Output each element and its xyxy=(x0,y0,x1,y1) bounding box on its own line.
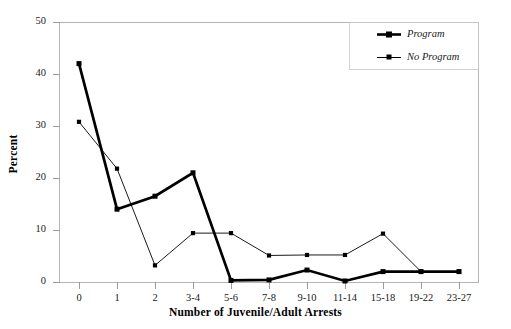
y-axis-ticks xyxy=(53,23,60,283)
legend-marker-program xyxy=(386,32,392,38)
legend-label-program: Program xyxy=(407,28,445,39)
y-tick-label: 50 xyxy=(22,15,46,26)
data-point-no-program xyxy=(191,231,195,235)
data-point-program xyxy=(153,194,158,199)
data-point-no-program xyxy=(115,167,119,171)
y-axis-title: Percent xyxy=(7,119,19,189)
data-point-program xyxy=(229,278,234,283)
data-point-program xyxy=(381,269,386,274)
data-point-program xyxy=(115,207,120,212)
x-axis-ticks xyxy=(80,282,460,289)
data-point-program xyxy=(191,170,196,175)
legend-label-no-program: No Program xyxy=(407,51,459,62)
y-tick-label: 20 xyxy=(22,171,46,182)
data-point-no-program xyxy=(229,231,233,235)
data-point-no-program xyxy=(153,263,157,267)
data-point-program xyxy=(77,61,82,66)
y-tick-label: 10 xyxy=(22,223,46,234)
series-line-program xyxy=(79,64,459,281)
data-point-no-program xyxy=(343,253,347,257)
data-point-no-program xyxy=(419,270,423,274)
data-point-no-program xyxy=(267,253,271,257)
data-point-program xyxy=(267,277,272,282)
data-point-no-program xyxy=(305,253,309,257)
series-line-no-program xyxy=(79,122,459,272)
y-tick-label: 0 xyxy=(22,275,46,286)
x-tick-label: 23-27 xyxy=(429,292,489,303)
data-series-layer xyxy=(77,61,462,283)
data-point-no-program xyxy=(77,120,81,124)
data-point-program xyxy=(343,278,348,283)
chart-container: Program No Program 01020304050 0123-45-6… xyxy=(0,0,511,329)
data-point-no-program xyxy=(381,232,385,236)
y-tick-label: 40 xyxy=(22,67,46,78)
legend-marker-no-program xyxy=(387,55,392,60)
x-axis-title: Number of Juvenile/Adult Arrests xyxy=(0,306,511,318)
data-point-program xyxy=(305,268,310,273)
plot-area xyxy=(0,0,511,329)
data-point-no-program xyxy=(457,270,461,274)
y-tick-label: 30 xyxy=(22,119,46,130)
